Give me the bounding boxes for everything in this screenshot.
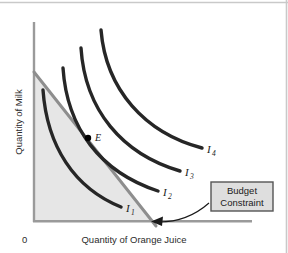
indifference-curve-figure: E I 1 I 2 I 3 I 4 Budget Constraint Quan… xyxy=(0,0,288,253)
indifference-curve-4 xyxy=(101,30,202,148)
curve-label-3-subscript: 3 xyxy=(189,172,194,181)
optimum-point-dot xyxy=(85,135,91,141)
budget-constraint-label-line2: Constraint xyxy=(220,197,264,208)
callout-arrow-head xyxy=(151,217,163,227)
y-axis-label: Quantity of Milk xyxy=(13,89,24,155)
x-axis-label: Quantity of Orange Juice xyxy=(81,234,186,245)
optimum-point-label: E xyxy=(94,132,101,143)
curve-label-1-subscript: 1 xyxy=(131,208,135,217)
origin-label: 0 xyxy=(22,234,27,245)
curve-label-4-subscript: 4 xyxy=(212,149,216,158)
callout-arrow-line xyxy=(159,203,209,222)
curve-label-2-subscript: 2 xyxy=(168,192,172,201)
budget-constraint-label-line1: Budget xyxy=(227,185,257,196)
